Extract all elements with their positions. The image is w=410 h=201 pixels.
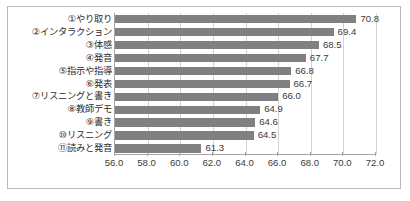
bar-row: 66.8 [115,65,376,78]
bar[interactable] [115,131,254,139]
axis-tick-mark [179,152,180,156]
bar-row: 66.0 [115,90,376,103]
axis-tick-mark [342,152,343,156]
bar-value-label: 61.3 [205,142,224,155]
axis-tick-label: 68.0 [300,157,319,168]
value-axis-ticks: 56.058.060.062.064.066.068.070.072.0 [114,156,375,174]
bar[interactable] [115,15,356,23]
axis-tick-label: 72.0 [366,157,385,168]
category-axis-labels: ①やり取り②インタラクション③体感④発音⑤指示や指導⑥発表⑦リスニングと書き⑧教… [8,13,114,155]
bar-value-label: 66.7 [294,78,313,91]
chart-frame: ①やり取り②インタラクション③体感④発音⑤指示や指導⑥発表⑦リスニングと書き⑧教… [7,6,401,189]
bar-row: 70.8 [115,13,376,26]
axis-tick-label: 62.0 [203,157,222,168]
bar[interactable] [115,118,255,126]
bar[interactable] [115,80,290,88]
bar-row: 64.5 [115,129,376,142]
bar[interactable] [115,93,278,101]
bar-value-label: 66.0 [282,90,301,103]
bar-row: 68.5 [115,39,376,52]
chart-plot-wrapper: ①やり取り②インタラクション③体感④発音⑤指示や指導⑥発表⑦リスニングと書き⑧教… [8,7,400,188]
bar-row: 61.3 [115,142,376,155]
axis-tick-label: 60.0 [170,157,189,168]
gridline [376,13,377,154]
bar-row: 69.4 [115,26,376,39]
bar-row: 64.9 [115,103,376,116]
bar-row: 66.7 [115,78,376,91]
category-label: ②インタラクション [32,26,112,39]
axis-tick-label: 56.0 [105,157,124,168]
category-label: ⑥発表 [86,78,112,91]
category-label: ⑩リスニング [59,129,112,142]
axis-tick-mark [310,152,311,156]
bar-value-label: 64.5 [258,129,277,142]
category-label: ⑧教師デモ [68,103,112,116]
category-label: ⑦リスニングと書き [32,90,112,103]
axis-tick-label: 70.0 [333,157,352,168]
axis-tick-mark [245,152,246,156]
plot-area: 70.869.468.567.766.866.766.064.964.664.5… [114,13,375,155]
axis-tick-label: 64.0 [235,157,254,168]
bar[interactable] [115,41,319,49]
bar-value-label: 64.9 [264,103,283,116]
bar[interactable] [115,67,291,75]
axis-tick-mark [375,152,376,156]
bar-value-label: 66.8 [295,65,314,78]
axis-tick-mark [212,152,213,156]
bar-value-label: 67.7 [310,52,329,65]
category-label: ③体感 [86,39,112,52]
category-label: ⑪読みと発音 [58,142,112,155]
category-label: ⑨書き [86,116,112,129]
category-label: ①やり取り [68,13,112,26]
bar-row: 64.6 [115,116,376,129]
axis-tick-mark [147,152,148,156]
bar-row: 67.7 [115,52,376,65]
bar-value-label: 69.4 [338,26,357,39]
axis-tick-mark [277,152,278,156]
bar-value-label: 70.8 [360,13,379,26]
bar-value-label: 68.5 [323,39,342,52]
bar-value-label: 64.6 [259,116,278,129]
category-label: ④発音 [86,52,112,65]
axis-tick-label: 58.0 [137,157,156,168]
category-label: ⑤指示や指導 [59,65,112,78]
bar[interactable] [115,106,260,114]
axis-tick-mark [114,152,115,156]
bar[interactable] [115,28,334,36]
bar[interactable] [115,144,201,152]
axis-tick-label: 66.0 [268,157,287,168]
bar[interactable] [115,54,306,62]
